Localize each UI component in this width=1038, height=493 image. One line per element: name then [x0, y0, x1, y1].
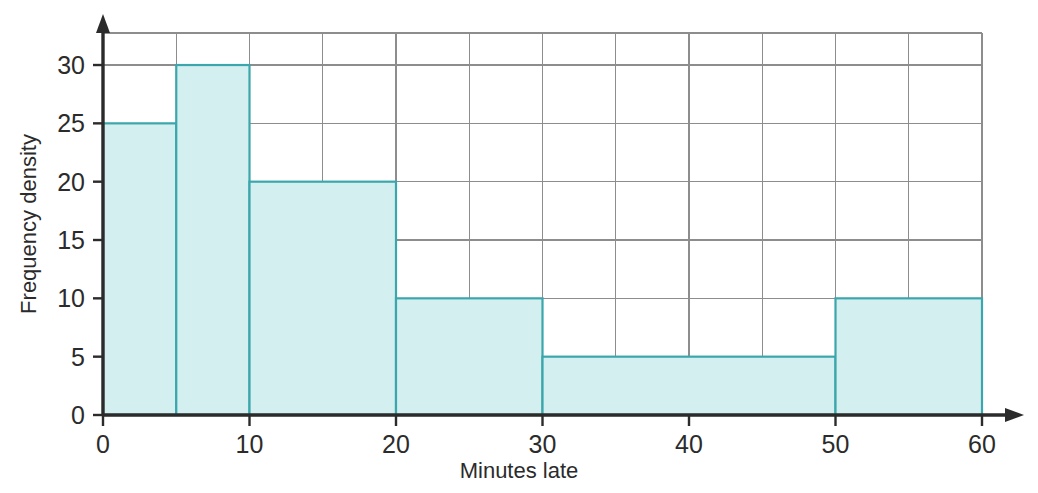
chart-canvas: 0510152025300102030405060 Minutes late F… — [0, 0, 1038, 493]
y-axis-tick-label: 0 — [71, 401, 85, 429]
y-axis-title: Frequency density — [16, 134, 41, 314]
histogram-chart: 0510152025300102030405060 Minutes late F… — [0, 0, 1038, 493]
y-axis-tick-label: 10 — [57, 284, 85, 312]
x-axis-tick-label: 10 — [236, 430, 264, 458]
y-axis-tick-label: 15 — [57, 226, 85, 254]
x-axis-tick-label: 60 — [968, 430, 996, 458]
histogram-bar — [250, 182, 397, 415]
histogram-bar — [836, 298, 983, 415]
y-axis-tick-label: 30 — [57, 51, 85, 79]
x-axis-tick-label: 30 — [529, 430, 557, 458]
histogram-bar — [543, 357, 836, 415]
histogram-bar — [103, 123, 176, 415]
x-axis-tick-label: 20 — [382, 430, 410, 458]
histogram-bar — [176, 65, 249, 415]
x-axis-tick-label: 40 — [675, 430, 703, 458]
x-axis-tick-label: 0 — [96, 430, 110, 458]
y-axis-tick-label: 20 — [57, 168, 85, 196]
y-axis-tick-label: 5 — [71, 343, 85, 371]
y-axis-tick-label: 25 — [57, 109, 85, 137]
x-axis-tick-label: 50 — [822, 430, 850, 458]
x-axis-title: Minutes late — [460, 458, 579, 483]
histogram-bar — [396, 298, 543, 415]
